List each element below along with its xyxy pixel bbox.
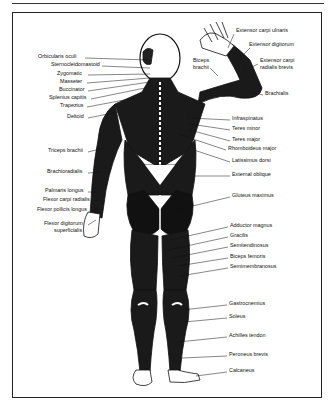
label-brachialis: Brachialis (265, 90, 288, 96)
label-orbicularis-oculi: Orbicularis oculi (38, 53, 76, 59)
label-infraspinatus: Infraspinatus (232, 115, 263, 121)
label-biceps-femoris: Biceps femoris (230, 253, 265, 259)
label-trapezius: Trapezius (60, 102, 83, 108)
label-extensor-carpi-ulnaris: Extensor carpi ulnaris (236, 27, 288, 33)
label-extensor-carpi: Extensor carpi (260, 57, 294, 63)
label-teres-major: Teres major (232, 136, 260, 142)
label-palmaris-longus: Palmaris longus (45, 187, 83, 193)
label-splenius-capitis: Splenius capitis (49, 94, 86, 100)
label-zygomatic: Zygomatic (57, 70, 82, 76)
raised-arm-shape (198, 44, 262, 104)
label-buccinator: Buccinator (59, 86, 84, 92)
label-superficialis: superficialis (54, 227, 82, 233)
label-brachioradialis: Brachioradialis (47, 168, 82, 174)
label-semimembranosus: Semimembranosus (230, 263, 276, 269)
right-thigh-shape (162, 230, 190, 290)
left-foot-shape (133, 370, 152, 386)
label-semitendinosus: Semitendinosus (230, 242, 268, 248)
label-flexor-digitorum: Flexor digitorum (44, 220, 83, 226)
label-rhomboideus-major: Rhomboideus major (228, 145, 276, 151)
label-masseter: Masseter (60, 78, 82, 84)
label-gluteus-maximus: Gluteus maximus (232, 192, 274, 198)
label-biceps: Biceps (193, 57, 209, 63)
label-radialis-brevis: radialis brevis (260, 64, 293, 70)
label-triceps-brachii: Triceps brachii (48, 147, 83, 153)
label-adductor-magnus: Adductor magnus (230, 222, 272, 228)
label-gastrocnemius: Gastrocnemius (229, 300, 265, 306)
label-achilles-tendon: Achilles tendon (229, 332, 266, 338)
left-thigh-shape (130, 230, 158, 290)
label-peroneus-brevis: Peroneus brevis (229, 351, 268, 357)
hanging-arm-shape (90, 104, 122, 218)
label-brachii: brachii (193, 64, 209, 70)
label-flexor-carpi-radialis: Flexor carpi radialis (43, 196, 90, 202)
label-sternocleidomastoid: Sternocleidomastoid (51, 61, 100, 67)
label-flexor-pollicis-longus: Flexor pollicis longus (37, 206, 87, 212)
label-soleus: Soleus (229, 313, 245, 319)
label-external-oblique: External oblique (232, 171, 271, 177)
label-teres-minor: Teres minor (232, 125, 260, 131)
label-extensor-digitorum: Extensor digitorum (249, 41, 294, 47)
label-calcaneus: Calcaneus (229, 367, 254, 373)
right-foot-shape (168, 370, 200, 383)
label-gracilis: Gracilis (230, 232, 248, 238)
label-latissimus-dorsi: Latissimus dorsi (232, 157, 271, 163)
label-deltoid: Deltoid (67, 113, 84, 119)
